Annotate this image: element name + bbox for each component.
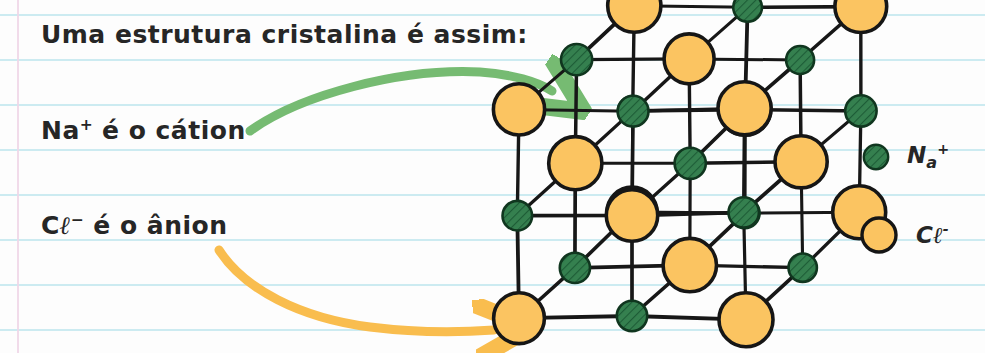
- cation-note: Na+ é o cátion: [41, 116, 246, 145]
- chloride-ion: [608, 0, 661, 32]
- chloride-ion: [494, 293, 545, 344]
- notebook-page: Uma estrutura cristalina é assim: Na+ é …: [0, 0, 985, 353]
- legend-label-sodium: Na+: [907, 141, 949, 172]
- lattice-bonds: [493, 0, 886, 347]
- legend-item-sodium: Na+: [861, 141, 949, 172]
- legend-cl-charge: -: [943, 221, 949, 237]
- anion-charge: −: [71, 211, 84, 229]
- anion-note: Cℓ− é o ânion: [41, 211, 228, 240]
- sodium-ion: [503, 201, 533, 231]
- sodium-ion: [617, 301, 647, 331]
- page-title: Uma estrutura cristalina é assim:: [41, 20, 528, 49]
- cation-charge: +: [80, 116, 93, 134]
- cation-symbol: Na: [41, 116, 80, 145]
- legend-na-charge: +: [937, 141, 949, 157]
- legend-label-chloride: Cℓ-: [916, 221, 949, 249]
- sphere-green-hatched-icon: [861, 142, 891, 172]
- chloride-ion: [493, 84, 544, 135]
- orange-arrow: [219, 250, 494, 332]
- legend-na-n: N: [907, 142, 926, 168]
- chloride-ion: [835, 0, 887, 33]
- sodium-ion: [789, 254, 817, 282]
- chloride-ion: [718, 82, 771, 135]
- sodium-ion: [729, 197, 759, 227]
- sodium-ion: [561, 44, 592, 75]
- sodium-ion: [845, 95, 876, 126]
- handdrawn-artwork: [0, 0, 985, 353]
- legend-item-chloride: Cℓ-: [858, 214, 949, 256]
- anion-symbol-c: C: [41, 211, 60, 240]
- sodium-ion: [560, 253, 590, 283]
- anion-text: é o ânion: [84, 211, 227, 240]
- legend-cl-l: ℓ: [933, 221, 943, 248]
- chloride-ion: [719, 293, 773, 347]
- chloride-ion: [664, 34, 714, 84]
- sodium-ion: [786, 46, 814, 74]
- chloride-ion: [775, 136, 827, 188]
- legend-na-a: a: [926, 153, 937, 172]
- sodium-ion: [675, 148, 706, 179]
- legend-cl-c: C: [916, 222, 933, 248]
- chloride-ion: [663, 238, 716, 291]
- anion-symbol-l: ℓ: [60, 211, 71, 240]
- sodium-ion: [618, 96, 649, 127]
- cation-text: é o cátion: [93, 116, 246, 145]
- sphere-orange-icon: [858, 214, 900, 256]
- sodium-ion: [733, 0, 762, 22]
- chloride-ion: [549, 137, 602, 190]
- chloride-ion: [606, 190, 657, 241]
